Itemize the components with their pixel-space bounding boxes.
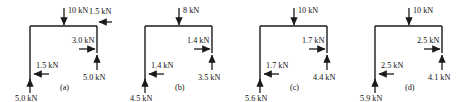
panel-caption-a: (a) xyxy=(60,83,69,92)
panel-caption-c: (c) xyxy=(290,83,299,92)
load-label-bottom-left-vertical-c: 5.6 kN xyxy=(245,94,267,102)
diagram-panel-c: 10 kN 1.7 kN 4.4 kN 1.7 kN 5.6 kN (c) xyxy=(230,0,345,102)
load-label-right-vertical-d: 4.1 kN xyxy=(428,73,450,82)
load-label-bottom-left-vertical-d: 5.9 kN xyxy=(360,94,382,102)
load-label-bottom-left-horizontal-b: 1.4 kN xyxy=(151,61,173,70)
panel-caption-b: (b) xyxy=(175,83,185,92)
load-label-bottom-left-horizontal-c: 1.7 kN xyxy=(266,61,288,70)
panel-caption-d: (d) xyxy=(405,83,415,92)
free-body-diagram-figure: 10 kN 1.5 kN 3.0 kN 5.0 kN 1.5 kN 5.0 kN… xyxy=(0,0,468,102)
load-label-mid-right-horizontal-d: 2.5 kN xyxy=(417,36,439,45)
load-label-mid-right-horizontal-b: 1.4 kN xyxy=(187,36,209,45)
load-label-mid-right-horizontal-c: 1.7 kN xyxy=(302,36,324,45)
load-label-top-vertical-c: 10 kN xyxy=(298,6,318,15)
load-label-top-vertical-d: 10 kN xyxy=(413,6,433,15)
frame-outline-c xyxy=(260,26,327,80)
diagram-panel-b: 8 kN 1.4 kN 3.5 kN 1.4 kN 4.5 kN (b) xyxy=(115,0,230,102)
load-label-right-vertical-a: 5.0 kN xyxy=(83,73,105,82)
frame-outline-b xyxy=(145,26,212,80)
load-label-bottom-left-horizontal-a: 1.5 kN xyxy=(36,61,58,70)
load-label-right-vertical-c: 4.4 kN xyxy=(313,73,335,82)
load-label-bottom-left-vertical-a: 5.0 kN xyxy=(15,94,37,102)
frame-outline-a xyxy=(30,26,97,80)
load-label-top-vertical-b: 8 kN xyxy=(183,6,199,15)
load-label-top-right-horizontal-a: 1.5 kN xyxy=(89,7,111,16)
load-label-bottom-left-vertical-b: 4.5 kN xyxy=(130,94,152,102)
diagram-panel-a: 10 kN 1.5 kN 3.0 kN 5.0 kN 1.5 kN 5.0 kN… xyxy=(0,0,115,102)
load-label-bottom-left-horizontal-d: 2.5 kN xyxy=(381,61,403,70)
load-label-right-vertical-b: 3.5 kN xyxy=(198,73,220,82)
load-label-mid-right-horizontal-a: 3.0 kN xyxy=(72,36,94,45)
frame-outline-d xyxy=(375,26,442,80)
load-label-top-vertical-a: 10 kN xyxy=(68,6,88,15)
diagram-panel-d: 10 kN 2.5 kN 4.1 kN 2.5 kN 5.9 kN (d) xyxy=(345,0,468,102)
